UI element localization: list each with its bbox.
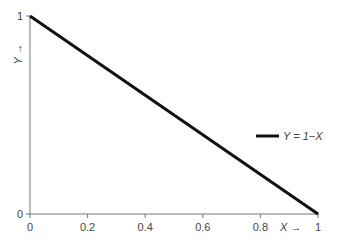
y-ticks bbox=[26, 16, 30, 214]
chart: 0 0.2 0.4 0.6 0.8 1 0 1 X → Y → Y = 1−X bbox=[0, 0, 338, 245]
x-tick-label: 0.6 bbox=[195, 221, 210, 233]
y-axis-title: Y → bbox=[12, 43, 24, 64]
legend-label: Y = 1−X bbox=[283, 130, 323, 142]
y-tick-label: 0 bbox=[17, 208, 23, 220]
x-tick-label: 0.4 bbox=[138, 221, 153, 233]
x-tick-label: 0.8 bbox=[253, 221, 268, 233]
legend: Y = 1−X bbox=[256, 130, 323, 142]
series-line bbox=[30, 16, 318, 214]
x-tick-label: 0 bbox=[27, 221, 33, 233]
x-axis-title: X → bbox=[279, 221, 301, 233]
x-tick-label: 0.2 bbox=[80, 221, 95, 233]
x-tick-label: 1 bbox=[315, 221, 321, 233]
x-ticks bbox=[30, 214, 318, 218]
y-tick-label: 1 bbox=[17, 10, 23, 22]
